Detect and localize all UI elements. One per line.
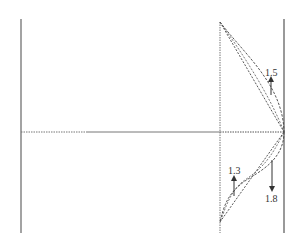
label-1-5: 1.5 [265,67,278,78]
lower-s-profile [220,132,284,222]
velocity-profile-diagram: 1.5 1.3 1.8 [0,0,303,248]
label-1-3: 1.3 [228,165,241,176]
label-1-8: 1.8 [265,193,278,204]
